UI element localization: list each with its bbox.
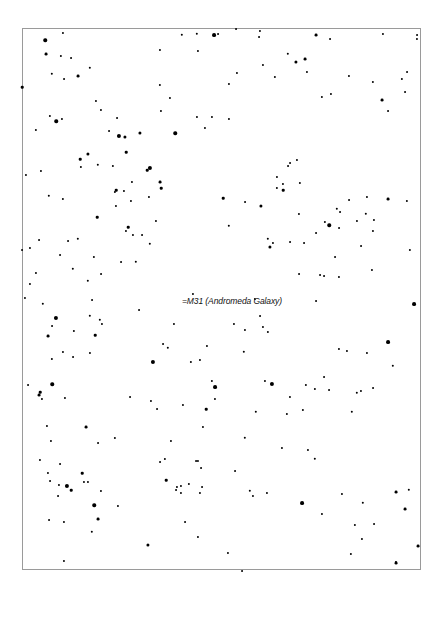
star-icon: [159, 181, 162, 184]
star-icon: [267, 331, 269, 333]
star-icon: [47, 335, 50, 338]
star-icon: [170, 440, 172, 442]
star-icon: [234, 470, 236, 472]
star-icon: [406, 200, 408, 202]
star-icon: [409, 249, 411, 251]
star-icon: [289, 241, 291, 243]
star-icon: [199, 492, 201, 494]
star-icon: [173, 131, 177, 135]
star-icon: [373, 219, 375, 221]
star-icon: [314, 458, 316, 460]
star-icon: [336, 208, 338, 210]
star-icon: [132, 234, 134, 236]
star-icon: [235, 28, 237, 30]
star-icon: [356, 220, 358, 222]
star-icon: [387, 198, 390, 201]
star-icon: [329, 38, 331, 40]
star-icon: [67, 240, 69, 242]
star-icon: [276, 176, 278, 178]
star-icon: [59, 463, 61, 465]
star-icon: [262, 64, 264, 66]
star-icon: [141, 234, 143, 236]
star-icon: [274, 76, 276, 78]
star-icon: [51, 358, 53, 360]
star-icon: [222, 197, 225, 200]
star-icon: [338, 348, 340, 350]
star-icon: [120, 261, 122, 263]
star-icon: [50, 440, 52, 442]
star-icon: [38, 394, 41, 397]
star-icon: [386, 340, 390, 344]
star-icon: [338, 276, 340, 278]
star-icon: [117, 134, 121, 138]
star-icon: [366, 196, 368, 198]
star-icon: [387, 110, 389, 112]
star-icon: [371, 269, 373, 271]
star-icon: [282, 189, 285, 192]
star-icon: [149, 243, 151, 245]
star-icon: [146, 543, 149, 546]
star-icon: [29, 247, 31, 249]
star-icon: [95, 100, 97, 102]
star-icon: [167, 347, 169, 349]
star-icon: [328, 389, 330, 391]
star-icon: [63, 560, 65, 562]
star-icon: [45, 53, 48, 56]
star-icon: [117, 505, 119, 507]
star-icon: [112, 165, 114, 167]
star-icon: [160, 110, 162, 112]
star-icon: [205, 408, 208, 411]
star-icon: [49, 115, 51, 117]
star-icon: [286, 413, 288, 415]
star-icon: [42, 303, 44, 305]
star-icon: [148, 196, 150, 198]
star-icon: [156, 408, 158, 410]
star-icon: [91, 531, 93, 533]
star-icon: [123, 135, 126, 138]
star-icon: [87, 481, 89, 483]
star-icon: [175, 489, 177, 491]
star-icon: [138, 131, 141, 134]
star-icon: [92, 503, 96, 507]
star-icon: [114, 191, 116, 193]
star-icon: [169, 97, 171, 99]
star-icon: [307, 449, 309, 451]
star-icon: [204, 127, 206, 129]
star-icon: [184, 521, 186, 523]
star-icon: [270, 382, 274, 386]
star-icon: [212, 33, 216, 37]
star-icon: [362, 502, 364, 504]
star-icon: [356, 392, 358, 394]
star-icon: [287, 165, 289, 167]
star-icon: [97, 164, 99, 166]
star-icon: [173, 323, 175, 325]
star-icon: [100, 490, 102, 492]
star-icon: [233, 323, 235, 325]
star-icon: [99, 319, 101, 321]
star-icon: [62, 351, 64, 353]
star-icon: [155, 220, 157, 222]
star-icon: [360, 245, 362, 247]
star-icon: [395, 491, 398, 494]
star-icon: [127, 226, 130, 229]
star-icon: [77, 238, 79, 240]
star-icon: [138, 309, 140, 311]
star-icon: [91, 299, 93, 301]
star-icon: [227, 552, 229, 554]
star-icon: [296, 159, 298, 161]
star-icon: [83, 481, 85, 483]
star-icon: [159, 84, 161, 86]
star-icon: [327, 223, 331, 227]
star-icon: [406, 71, 408, 73]
star-icon: [70, 489, 73, 492]
star-icon: [315, 300, 317, 302]
star-icon: [101, 323, 103, 325]
star-icon: [392, 365, 394, 367]
star-icon: [114, 437, 116, 439]
star-icon: [164, 458, 166, 460]
star-icon: [70, 57, 72, 59]
star-icon: [86, 152, 89, 155]
star-icon: [24, 297, 26, 299]
star-icon: [266, 492, 268, 494]
star-icon: [315, 34, 318, 37]
